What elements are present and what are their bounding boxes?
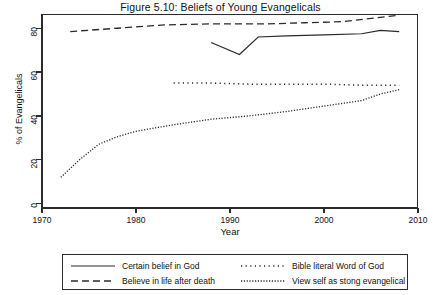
legend-label: Believe in life after death [122,276,215,286]
x-tick-label: 2010 [398,215,438,225]
legend-entry[interactable]: Bible literal Word of God [241,259,384,273]
legend-entry[interactable]: Believe in life after death [71,274,215,288]
legend-line-swatch [241,276,285,286]
x-tick-label: 1970 [22,215,62,225]
x-tick-mark [323,208,324,213]
x-tick-mark [41,208,42,213]
legend-label: Bible literal Word of God [292,261,384,271]
x-tick-mark [417,208,418,213]
series-line [61,90,399,178]
legend-label: Certain belief in God [122,261,200,271]
chart-legend: Certain belief in GodBelieve in life aft… [62,254,408,290]
chart-figure: Figure 5.10: Beliefs of Young Evangelica… [0,0,441,295]
legend-entry[interactable]: View self as stong evangelical [241,274,405,288]
x-tick-label: 1980 [116,215,156,225]
legend-entry[interactable]: Certain belief in God [71,259,200,273]
x-tick-label: 2000 [304,215,344,225]
y-axis-label: % of Evangelicals [14,54,24,164]
series-line [174,83,400,85]
x-tick-label: 1990 [210,215,250,225]
y-tick-label: 80 [29,27,39,47]
legend-line-swatch [241,261,285,271]
y-tick-label: 40 [29,115,39,135]
y-tick-label: 20 [29,159,39,179]
legend-line-swatch [71,261,115,271]
chart-title: Figure 5.10: Beliefs of Young Evangelica… [0,1,441,13]
series-line [211,30,399,54]
legend-line-swatch [71,276,115,286]
x-tick-mark [229,208,230,213]
legend-label: View self as stong evangelical [292,276,405,286]
x-axis-label: Year [42,226,418,237]
series-line [70,15,399,31]
y-tick-label: 60 [29,71,39,91]
plot-series-canvas [42,14,418,208]
x-tick-mark [135,208,136,213]
